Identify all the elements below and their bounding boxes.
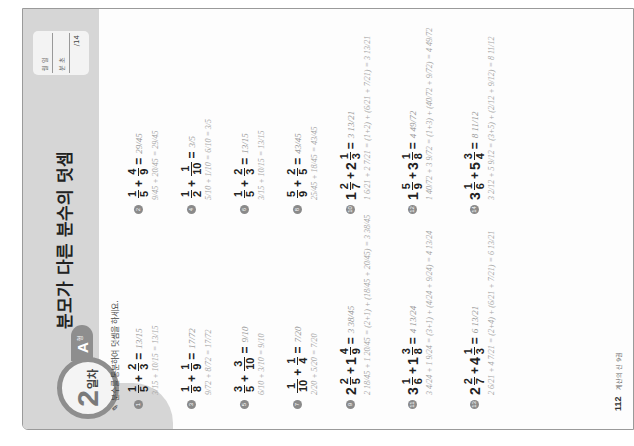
numerator: 1 bbox=[339, 152, 350, 160]
problem-number: 3 bbox=[187, 400, 196, 409]
fraction-b: 25 bbox=[286, 168, 309, 176]
problem-number: 8 bbox=[293, 205, 302, 214]
handwritten-answer[interactable]: 8 11/12 bbox=[470, 112, 480, 139]
denominator: 5 bbox=[297, 168, 309, 176]
fraction-a: 15 bbox=[127, 385, 150, 393]
problem-6: 615+23=13/153/15 + 10/15 = 13/15 bbox=[233, 131, 266, 214]
numerator: 2 bbox=[339, 182, 350, 190]
handwritten-answer[interactable]: 13/15 bbox=[134, 328, 144, 349]
fraction-b: 38 bbox=[401, 347, 424, 355]
whole-b: 3 bbox=[405, 162, 421, 170]
denominator: 6 bbox=[474, 182, 486, 190]
denominator: 4 bbox=[297, 357, 309, 365]
denominator: 3 bbox=[474, 347, 486, 355]
type-tab: A 형 bbox=[71, 325, 93, 361]
numerator: 2 bbox=[339, 377, 350, 385]
fraction-b: 18 bbox=[401, 152, 424, 160]
numerator: 1 bbox=[401, 152, 412, 160]
numerator: 1 bbox=[127, 385, 138, 393]
problem-number: 7 bbox=[293, 400, 302, 409]
handwritten-answer[interactable]: 29/45 bbox=[134, 133, 144, 154]
whole-a: 3 bbox=[405, 387, 421, 395]
denominator: 3 bbox=[350, 152, 362, 160]
handwritten-answer[interactable]: 3 13/21 bbox=[346, 111, 356, 138]
problem-number: 4 bbox=[187, 205, 196, 214]
fraction-b: 14 bbox=[286, 357, 309, 365]
numerator: 5 bbox=[286, 190, 297, 198]
numerator: 1 bbox=[463, 182, 474, 190]
equals-sign: = bbox=[238, 158, 252, 165]
date-field[interactable]: 월 일 bbox=[36, 33, 53, 73]
denominator: 9 bbox=[412, 182, 424, 190]
fraction-a: 15 bbox=[233, 190, 256, 198]
handwritten-answer[interactable]: 7/20 bbox=[293, 327, 303, 343]
denominator: 5 bbox=[350, 377, 362, 385]
whole-a: 2 bbox=[343, 387, 359, 395]
handwritten-work: 9/45 + 20/45 = 29/45 bbox=[151, 131, 160, 200]
problem-expression: 159+318=4 49/72 bbox=[401, 111, 424, 200]
instruction: ✎분수를 통분하여 덧셈을 하세요. bbox=[109, 300, 120, 411]
handwritten-answer[interactable]: 17/72 bbox=[187, 328, 197, 349]
time-label: 분 초 bbox=[57, 57, 66, 71]
problem-number: 11 bbox=[408, 400, 417, 409]
equals-sign: = bbox=[344, 337, 358, 344]
whole-a: 1 bbox=[405, 192, 421, 200]
numerator: 2 bbox=[127, 363, 138, 371]
equals-sign: = bbox=[185, 152, 199, 159]
equals-sign: = bbox=[468, 337, 482, 344]
handwritten-answer[interactable]: 43/45 bbox=[293, 133, 303, 154]
numerator: 2 bbox=[286, 168, 297, 176]
plus-sign: + bbox=[185, 375, 199, 382]
denominator: 10 bbox=[297, 379, 309, 393]
score-total[interactable]: /14 bbox=[70, 33, 84, 73]
handwritten-answer[interactable]: 6 13/21 bbox=[470, 306, 480, 333]
handwritten-work: 1 6/21 + 2 7/21 = (1+2) + (6/21 + 7/21) … bbox=[363, 36, 372, 200]
fraction-b: 13 bbox=[463, 347, 486, 355]
denominator: 7 bbox=[474, 377, 486, 385]
plus-sign: + bbox=[132, 375, 146, 382]
problem-expression: 127+213=3 13/21 bbox=[339, 111, 362, 200]
problem-7: 7110+14=7/202/20 + 5/20 = 7/20 bbox=[286, 327, 319, 409]
problem-expression: 15+23=13/15 bbox=[233, 133, 256, 200]
problem-expression: 15+23=13/15 bbox=[127, 328, 150, 395]
denominator: 8 bbox=[412, 152, 424, 160]
plus-sign: + bbox=[291, 369, 305, 376]
fraction-b: 49 bbox=[339, 347, 362, 355]
plus-sign: + bbox=[468, 172, 482, 179]
numerator: 4 bbox=[127, 168, 138, 176]
whole-b: 1 bbox=[343, 357, 359, 365]
problem-number: 14 bbox=[470, 205, 479, 214]
handwritten-answer[interactable]: 13/15 bbox=[240, 133, 250, 154]
problem-4: 412+110=3/55/10 + 1/10 = 6/10 = 3/5 bbox=[180, 119, 213, 214]
handwritten-work: 3/15 + 10/15 = 13/15 bbox=[257, 131, 266, 200]
handwritten-work: 1 40/72 + 3 9/72 = (1+3) + (40/72 + 9/72… bbox=[425, 28, 434, 200]
time-field[interactable]: 분 초 bbox=[53, 33, 70, 73]
equals-sign: = bbox=[291, 347, 305, 354]
handwritten-answer[interactable]: 4 49/72 bbox=[408, 111, 418, 138]
fraction-a: 59 bbox=[286, 190, 309, 198]
handwritten-answer[interactable]: 3 38/45 bbox=[346, 306, 356, 333]
handwritten-work: 2 6/21 + 4 7/21 = (2+4) + (6/21 + 7/21) … bbox=[487, 231, 496, 395]
handwritten-work: 25/45 + 18/45 = 43/45 bbox=[310, 127, 319, 200]
numerator: 1 bbox=[286, 357, 297, 365]
denominator: 3 bbox=[244, 168, 256, 176]
fraction-a: 12 bbox=[180, 190, 203, 198]
whole-b: 2 bbox=[343, 162, 359, 170]
problem-number: 2 bbox=[134, 205, 143, 214]
problem-expression: 59+25=43/45 bbox=[286, 133, 309, 200]
denominator: 5 bbox=[244, 385, 256, 393]
plus-sign: + bbox=[406, 172, 420, 179]
fraction-b: 19 bbox=[180, 363, 203, 371]
fraction-a: 15 bbox=[127, 190, 150, 198]
plus-sign: + bbox=[132, 180, 146, 187]
plus-sign: + bbox=[344, 172, 358, 179]
problem-1: 115+23=13/153/15 + 10/15 = 13/15 bbox=[127, 326, 160, 409]
handwritten-answer[interactable]: 4 13/24 bbox=[408, 306, 418, 333]
handwritten-answer[interactable]: 3/5 bbox=[187, 136, 197, 148]
equals-sign: = bbox=[406, 142, 420, 149]
handwritten-answer[interactable]: 9/10 bbox=[240, 327, 250, 343]
problem-13: 13227+413=6 13/212 6/21 + 4 7/21 = (2+4)… bbox=[463, 231, 496, 409]
problem-9: 9225+149=3 38/452 18/45 + 1 20/45 = (2+1… bbox=[339, 215, 372, 409]
problem-5: 535+310=9/106/10 + 3/10 = 9/10 bbox=[233, 327, 266, 409]
plus-sign: + bbox=[185, 180, 199, 187]
